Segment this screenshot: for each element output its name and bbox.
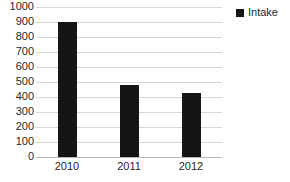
x-axis-tick-label: 2011 xyxy=(98,160,160,173)
y-axis-tick-label: 100 xyxy=(2,136,34,147)
y-axis-tick-label: 200 xyxy=(2,121,34,132)
y-axis-tick-label: 700 xyxy=(2,46,34,57)
x-axis-tick-label: 2012 xyxy=(160,160,222,173)
plot-area xyxy=(36,7,222,157)
x-axis-tick-label: 2010 xyxy=(36,160,98,173)
y-axis: 10009008007006005004003002001000 xyxy=(0,0,34,182)
y-axis-tick-label: 1000 xyxy=(2,1,34,12)
bar xyxy=(120,85,139,157)
y-axis-tick-label: 300 xyxy=(2,106,34,117)
y-axis-tick-label: 400 xyxy=(2,91,34,102)
y-axis-tick-label: 0 xyxy=(2,151,34,162)
y-axis-tick-label: 500 xyxy=(2,76,34,87)
bar-chart: 10009008007006005004003002001000 2010201… xyxy=(0,0,290,182)
x-axis: 201020112012 xyxy=(36,160,222,180)
y-axis-tick-label: 800 xyxy=(2,31,34,42)
axis-baseline xyxy=(36,157,222,158)
y-axis-tick-label: 600 xyxy=(2,61,34,72)
bar xyxy=(182,93,201,157)
y-axis-tick-label: 900 xyxy=(2,16,34,27)
chart-legend: Intake xyxy=(236,7,278,18)
bar xyxy=(58,22,77,157)
legend-label: Intake xyxy=(248,7,278,18)
legend-swatch-icon xyxy=(236,9,244,17)
gridline xyxy=(36,7,222,8)
